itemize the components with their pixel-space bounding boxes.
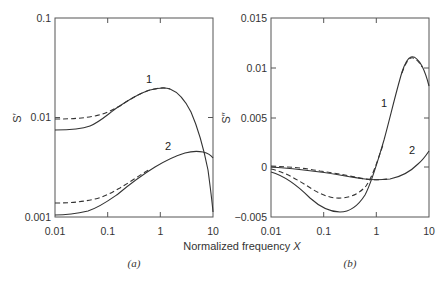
panel-a-curve-2-dashed bbox=[55, 169, 150, 203]
panel-a-curve-label-2: 2 bbox=[165, 140, 171, 152]
panel-b-xtick-1: 1 bbox=[373, 225, 379, 237]
panel-a: 0.1 0.01 0.001 0.01 0.1 1 10 S′ 1 2 (a) bbox=[11, 12, 219, 270]
panel-a-xtick-0.01: 0.01 bbox=[45, 225, 66, 237]
panel-a-curves bbox=[55, 88, 213, 215]
panel-a-curve-1-dashed bbox=[55, 88, 170, 119]
panel-b-xtick-0.1: 0.1 bbox=[316, 225, 331, 237]
panel-b-ytick-0.01: 0.01 bbox=[247, 62, 268, 74]
panel-a-frame bbox=[55, 18, 213, 217]
panel-b-frame bbox=[271, 18, 429, 217]
panel-b-y-ticks bbox=[271, 68, 429, 167]
panel-b-curve-label-2: 2 bbox=[409, 144, 415, 156]
xlabel-variable: X bbox=[292, 240, 301, 252]
panel-b-curve-1-solid bbox=[271, 57, 429, 212]
panel-a-ytick-0.1: 0.1 bbox=[36, 12, 51, 24]
panel-b-curve-1-dashed-peak bbox=[402, 58, 422, 73]
panel-a-xtick-10: 10 bbox=[207, 225, 219, 237]
panel-b-ytick-0: 0 bbox=[261, 161, 267, 173]
panel-b-ylabel: S″ bbox=[220, 112, 232, 123]
panel-a-ytick-0.01: 0.01 bbox=[31, 111, 52, 123]
xlabel-text: Normalized frequency bbox=[183, 240, 293, 252]
panel-a-xtick-0.1: 0.1 bbox=[100, 225, 115, 237]
panel-b-ytick-neg-0.005: −0.005 bbox=[235, 211, 268, 223]
panel-a-ylabel: S′ bbox=[11, 113, 23, 122]
panel-b-xtick-10: 10 bbox=[423, 225, 435, 237]
panel-a-x-ticks bbox=[108, 18, 161, 217]
panel-b-curves bbox=[271, 57, 429, 212]
panel-a-xtick-1: 1 bbox=[157, 225, 163, 237]
shared-xlabel: Normalized frequency X bbox=[183, 240, 301, 252]
panel-b-ytick-0.015: 0.015 bbox=[241, 12, 267, 24]
panel-b-curve-2-solid bbox=[271, 151, 429, 180]
panel-b-ytick-0.005: 0.005 bbox=[241, 112, 267, 124]
panel-a-curve-2-solid bbox=[55, 151, 213, 215]
panel-a-caption: (a) bbox=[128, 257, 141, 270]
panel-b-curve-label-1: 1 bbox=[381, 97, 387, 109]
panel-a-curve-1-solid bbox=[55, 88, 213, 212]
panel-a-ytick-0.001: 0.001 bbox=[25, 211, 51, 223]
panel-b-xtick-0.01: 0.01 bbox=[261, 225, 282, 237]
panel-b: 0.015 0.01 0.005 0 −0.005 0.01 0.1 1 10 … bbox=[220, 12, 435, 270]
figure: 0.1 0.01 0.001 0.01 0.1 1 10 S′ 1 2 (a) bbox=[0, 0, 446, 286]
panel-a-curve-label-1: 1 bbox=[146, 73, 152, 85]
panel-b-caption: (b) bbox=[344, 257, 357, 270]
